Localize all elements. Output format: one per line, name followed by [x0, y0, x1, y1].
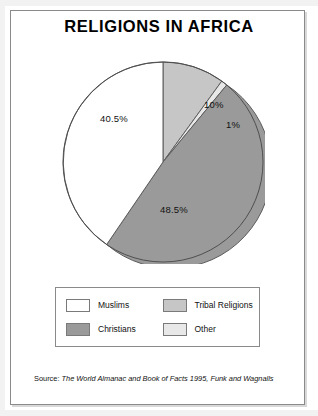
- legend-swatch-muslims: [66, 299, 90, 312]
- legend: Muslims Tribal Religions Christians Othe…: [55, 287, 260, 347]
- legend-item-tribal-religions: Tribal Religions: [163, 299, 260, 312]
- pie-svg: [61, 60, 265, 264]
- legend-swatch-tribal-religions: [163, 299, 187, 312]
- pie-label-christians: 48.5%: [160, 204, 188, 215]
- source-prefix: Source:: [34, 374, 62, 383]
- page-edge-top: [0, 0, 318, 6]
- legend-label-other: Other: [195, 324, 216, 334]
- pie-label-muslims: 40.5%: [100, 113, 128, 124]
- legend-item-muslims: Muslims: [66, 299, 163, 312]
- legend-label-christians: Christians: [98, 324, 136, 334]
- page-edge-bottom: [0, 410, 318, 416]
- legend-label-tribal-religions: Tribal Religions: [195, 300, 253, 310]
- pie-label-other: 1%: [226, 119, 240, 130]
- legend-label-muslims: Muslims: [98, 300, 129, 310]
- legend-swatch-christians: [66, 323, 90, 336]
- pie-label-tribal-religions: 10%: [204, 99, 224, 110]
- source-note: Source: The World Almanac and Book of Fa…: [34, 374, 274, 383]
- legend-item-christians: Christians: [66, 323, 163, 336]
- chart-title: RELIGIONS IN AFRICA: [0, 17, 318, 36]
- legend-swatch-other: [163, 323, 187, 336]
- source-citation: The World Almanac and Book of Facts 1995…: [62, 374, 274, 383]
- page-edge-left: [0, 0, 5, 416]
- legend-item-other: Other: [163, 323, 260, 336]
- figure-root: RELIGIONS IN AFRICA 40.5% 10% 1% 48.5% M…: [0, 0, 318, 416]
- pie-chart: [61, 60, 265, 264]
- legend-grid: Muslims Tribal Religions Christians Othe…: [56, 288, 259, 346]
